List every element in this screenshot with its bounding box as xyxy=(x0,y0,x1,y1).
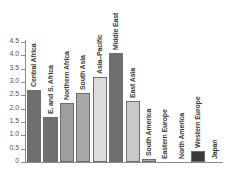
bar-category-label: Japan xyxy=(211,140,218,159)
bar-group: South America xyxy=(141,42,157,162)
y-axis-tick-mark xyxy=(21,135,25,136)
bar-category-label: E. and S. Africa xyxy=(47,65,54,114)
bars-area: Central AfricaE. and S. AfricaNorthern A… xyxy=(26,42,223,162)
y-axis-tick-mark xyxy=(21,122,25,123)
y-axis-tick-mark xyxy=(21,69,25,70)
bar[interactable] xyxy=(142,159,156,162)
y-axis-tick-mark xyxy=(21,42,25,43)
bar-chart: 00.51.01.52.02.53.03.54.04.5 Central Afr… xyxy=(0,0,234,173)
y-axis-tick-label: 4.5 xyxy=(10,37,19,44)
bar[interactable] xyxy=(93,77,107,162)
bar[interactable] xyxy=(60,103,74,162)
bar-category-label: South America xyxy=(145,109,152,156)
y-axis-tick-mark xyxy=(21,162,25,163)
y-axis-tick-mark xyxy=(21,109,25,110)
bar[interactable] xyxy=(126,101,140,162)
x-axis-line xyxy=(25,162,223,163)
y-axis-tick-label: 2.0 xyxy=(10,104,19,111)
bar[interactable] xyxy=(27,90,41,162)
bar-category-label: Northern Africa xyxy=(63,52,70,101)
y-axis-tick-mark xyxy=(21,55,25,56)
y-axis-tick-label: 3.0 xyxy=(10,77,19,84)
bar[interactable] xyxy=(76,93,90,162)
y-axis-tick-label: 0.5 xyxy=(10,144,19,151)
bar[interactable] xyxy=(43,117,57,162)
bar-group: South Asia xyxy=(75,42,91,162)
bar-group: Asia–Pacific xyxy=(92,42,108,162)
bar-category-label: Eastern Europe xyxy=(162,109,169,159)
y-axis-tick-label: 1.0 xyxy=(10,130,19,137)
y-axis-tick-mark xyxy=(21,149,25,150)
bar-category-label: North America xyxy=(178,113,185,159)
bar-group: North America xyxy=(174,42,190,162)
y-axis-tick-label: 3.5 xyxy=(10,64,19,71)
bar-category-label: Western Europe xyxy=(194,97,201,148)
bar-group: Eastern Europe xyxy=(157,42,173,162)
bar-group: Northern Africa xyxy=(59,42,75,162)
bar-group: East Asia xyxy=(125,42,141,162)
y-axis-tick-label: 4.0 xyxy=(10,50,19,57)
bar-group: Central Africa xyxy=(26,42,42,162)
bar[interactable] xyxy=(109,53,123,162)
y-axis-tick-mark xyxy=(21,82,25,83)
bar-group: E. and S. Africa xyxy=(42,42,58,162)
bar-category-label: South Asia xyxy=(80,55,87,90)
bar[interactable] xyxy=(191,151,205,162)
bar-category-label: Asia–Pacific xyxy=(96,34,103,73)
bar-group: Middle East xyxy=(108,42,124,162)
bar-category-label: Middle East xyxy=(112,12,119,49)
bar-category-label: Central Africa xyxy=(30,43,37,87)
bar-category-label: East Asia xyxy=(129,68,136,98)
y-axis-tick-label: 0 xyxy=(15,157,19,164)
bar-group: Japan xyxy=(207,42,223,162)
y-axis-tick-label: 2.5 xyxy=(10,90,19,97)
y-axis-tick-label: 1.5 xyxy=(10,117,19,124)
bar-group: Western Europe xyxy=(190,42,206,162)
y-axis-tick-mark xyxy=(21,95,25,96)
